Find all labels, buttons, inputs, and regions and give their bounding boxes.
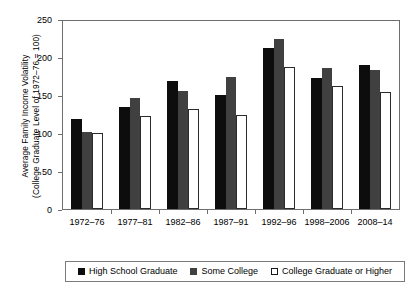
- bar: [274, 39, 285, 209]
- legend: High School GraduateSome CollegeCollege …: [65, 261, 405, 282]
- bar-group: [71, 21, 103, 209]
- x-tick-label: 1982–86: [157, 217, 209, 228]
- bar: [140, 116, 151, 209]
- bar: [71, 119, 82, 209]
- bar-group: [215, 21, 247, 209]
- x-tick-label: 1992–96: [253, 217, 305, 228]
- y-tick-mark: [58, 210, 62, 211]
- bar: [380, 92, 391, 209]
- bar: [119, 107, 130, 209]
- bar: [311, 78, 322, 209]
- bar-group: [263, 21, 295, 209]
- bar-chart: Average Family Income Volatility (Colleg…: [0, 0, 414, 291]
- y-tick: 100: [0, 134, 62, 135]
- x-tick-label: 1998–2006: [301, 217, 353, 228]
- bar: [370, 70, 381, 209]
- bar-group: [119, 21, 151, 209]
- bar: [130, 98, 141, 209]
- x-tick-mark: [111, 210, 112, 214]
- legend-swatch-icon: [271, 268, 278, 275]
- y-axis-title-line-1: Average Family Income Volatility: [20, 55, 31, 178]
- x-tick-mark: [159, 210, 160, 214]
- y-tick: 0: [0, 210, 62, 211]
- x-tick-mark: [255, 210, 256, 214]
- bar: [215, 95, 226, 209]
- legend-label: College Graduate or Higher: [282, 266, 392, 277]
- x-tick-mark: [303, 210, 304, 214]
- x-tick-label: 2008–14: [349, 217, 401, 228]
- bar-group: [359, 21, 391, 209]
- x-tick-mark: [207, 210, 208, 214]
- bar: [92, 133, 103, 209]
- x-tick-label: 1972–76: [61, 217, 113, 228]
- y-axis-title: Average Family Income Volatility (Colleg…: [16, 16, 46, 216]
- y-tick-label: 200: [8, 54, 52, 63]
- bar: [178, 91, 189, 209]
- y-tick: 200: [0, 58, 62, 59]
- bar-group: [167, 21, 199, 209]
- legend-item[interactable]: Some College: [190, 266, 258, 277]
- legend-swatch-icon: [78, 268, 85, 275]
- x-tick-label: 1987–91: [205, 217, 257, 228]
- y-tick-label: 100: [8, 130, 52, 139]
- legend-item[interactable]: College Graduate or Higher: [271, 266, 392, 277]
- y-tick: 150: [0, 96, 62, 97]
- legend-label: Some College: [201, 266, 258, 277]
- y-tick-label: 150: [8, 92, 52, 101]
- bar: [332, 86, 343, 209]
- y-tick-label: 0: [8, 206, 52, 215]
- bar: [284, 67, 295, 209]
- y-tick-label: 50: [8, 168, 52, 177]
- bar: [226, 77, 237, 209]
- bar: [188, 109, 199, 209]
- bar: [82, 132, 93, 209]
- legend-item[interactable]: High School Graduate: [78, 266, 178, 277]
- x-tick-label: 1977–81: [109, 217, 161, 228]
- y-tick-label: 250: [8, 16, 52, 25]
- legend-label: High School Graduate: [89, 266, 178, 277]
- bar-group: [311, 21, 343, 209]
- bar: [322, 68, 333, 209]
- legend-swatch-icon: [190, 268, 197, 275]
- y-tick: 50: [0, 172, 62, 173]
- bar: [167, 81, 178, 209]
- bar: [263, 48, 274, 209]
- bar: [236, 115, 247, 209]
- y-tick: 250: [0, 20, 62, 21]
- bars-layer: [63, 21, 399, 209]
- bar: [359, 65, 370, 209]
- x-tick-mark: [351, 210, 352, 214]
